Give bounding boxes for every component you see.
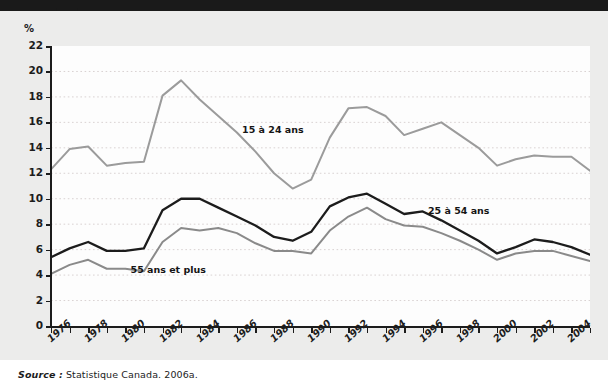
- y-tick-label: 22: [9, 39, 43, 51]
- series-label: 15 à 24 ans: [242, 124, 304, 135]
- chart-svg: [51, 46, 590, 326]
- series-line: [51, 194, 590, 258]
- x-tick-mark: [367, 328, 368, 333]
- x-tick-mark: [70, 328, 71, 333]
- title-band: [0, 0, 608, 11]
- y-tick-label: 6: [9, 243, 43, 255]
- y-tick-label: 20: [9, 64, 43, 76]
- series-label: 25 à 54 ans: [428, 205, 490, 216]
- y-axis-spine: [50, 46, 52, 327]
- source-value: Statistique Canada. 2006a.: [66, 369, 198, 380]
- x-tick-mark: [590, 328, 591, 333]
- y-tick-label: 2: [9, 294, 43, 306]
- source-label: Source :: [18, 369, 63, 380]
- x-tick-mark: [144, 328, 145, 333]
- x-tick-mark: [293, 328, 294, 333]
- x-tick-mark: [478, 328, 479, 333]
- y-tick-label: 14: [9, 141, 43, 153]
- x-tick-mark: [553, 328, 554, 333]
- source-note: Source : Statistique Canada. 2006a.: [18, 369, 198, 380]
- y-tick-label: 12: [9, 166, 43, 178]
- y-tick-label: 0: [9, 319, 43, 331]
- x-tick-mark: [516, 328, 517, 333]
- x-tick-mark: [330, 328, 331, 333]
- y-axis-unit-label: %: [24, 23, 34, 34]
- series-label: 55 ans et plus: [131, 264, 206, 275]
- x-tick-mark: [255, 328, 256, 333]
- plot-area: [51, 46, 590, 326]
- x-tick-mark: [107, 328, 108, 333]
- y-tick-label: 4: [9, 268, 43, 280]
- y-tick-label: 16: [9, 115, 43, 127]
- series-lines: [51, 80, 590, 273]
- y-tick-label: 8: [9, 217, 43, 229]
- y-tick-label: 10: [9, 192, 43, 204]
- x-tick-mark: [441, 328, 442, 333]
- figure-container: % 0246810121416182022 197619781980198219…: [0, 0, 608, 386]
- y-tick-label: 18: [9, 90, 43, 102]
